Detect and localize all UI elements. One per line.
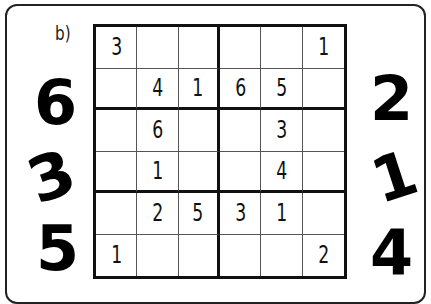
cell-value: 1 <box>318 33 329 61</box>
grid-cell-r3-c1[interactable] <box>96 110 137 152</box>
cell-value: 5 <box>276 74 287 102</box>
cell-value: 3 <box>111 33 122 61</box>
grid-cell-r5-c1[interactable] <box>96 193 137 235</box>
grid-cell-r3-c6[interactable] <box>303 110 344 152</box>
right-number-2: 1 <box>373 146 416 208</box>
grid-cell-r3-c3[interactable] <box>179 110 220 152</box>
cell-value: 3 <box>235 199 246 227</box>
cell-value: 1 <box>192 74 203 102</box>
left-number-2: 3 <box>30 146 73 208</box>
grid-cell-r5-c2[interactable]: 2 <box>137 193 178 235</box>
grid-cell-r4-c6[interactable] <box>303 152 344 194</box>
grid-cell-r2-c5[interactable]: 5 <box>261 69 302 111</box>
cell-value: 1 <box>152 157 163 185</box>
grid-cell-r1-c6[interactable]: 1 <box>303 27 344 69</box>
cell-value: 6 <box>152 116 163 144</box>
grid-cell-r2-c3[interactable]: 1 <box>179 69 220 111</box>
grid-cell-r6-c1[interactable]: 1 <box>96 235 137 277</box>
left-number-3: 5 <box>36 218 79 280</box>
right-number-1: 2 <box>370 68 413 130</box>
grid-cell-r1-c4[interactable] <box>220 27 261 69</box>
cell-value: 5 <box>192 199 203 227</box>
grid-cell-r6-c3[interactable] <box>179 235 220 277</box>
grid-cell-r5-c3[interactable]: 5 <box>179 193 220 235</box>
left-number-1: 6 <box>34 72 77 134</box>
grid-cell-r4-c3[interactable] <box>179 152 220 194</box>
grid-cell-r2-c4[interactable]: 6 <box>220 69 261 111</box>
grid-cell-r4-c4[interactable] <box>220 152 261 194</box>
grid-cell-r4-c1[interactable] <box>96 152 137 194</box>
cell-value: 4 <box>152 74 163 102</box>
grid-cell-r5-c5[interactable]: 1 <box>261 193 302 235</box>
grid-cell-r1-c1[interactable]: 3 <box>96 27 137 69</box>
sudoku-grid: 3141656314253112 <box>93 24 347 279</box>
grid-cell-r2-c6[interactable] <box>303 69 344 111</box>
grid-cell-r6-c6[interactable]: 2 <box>303 235 344 277</box>
grid-cell-r1-c2[interactable] <box>137 27 178 69</box>
puzzle-label: b) <box>55 22 71 44</box>
cell-value: 2 <box>152 199 163 227</box>
grid-cell-r5-c6[interactable] <box>303 193 344 235</box>
grid-cell-r5-c4[interactable]: 3 <box>220 193 261 235</box>
cell-value: 2 <box>318 241 329 269</box>
grid-cell-r4-c5[interactable]: 4 <box>261 152 302 194</box>
right-number-3: 4 <box>370 222 413 284</box>
grid-cell-r1-c3[interactable] <box>179 27 220 69</box>
grid-cell-r3-c5[interactable]: 3 <box>261 110 302 152</box>
grid-cell-r6-c4[interactable] <box>220 235 261 277</box>
cell-value: 4 <box>276 157 287 185</box>
cell-value: 6 <box>235 74 246 102</box>
cell-value: 1 <box>276 199 287 227</box>
grid-cell-r2-c2[interactable]: 4 <box>137 69 178 111</box>
cell-value: 1 <box>111 241 122 269</box>
grid-cell-r6-c2[interactable] <box>137 235 178 277</box>
grid-cell-r1-c5[interactable] <box>261 27 302 69</box>
grid-cell-r6-c5[interactable] <box>261 235 302 277</box>
grid-cell-r4-c2[interactable]: 1 <box>137 152 178 194</box>
cell-value: 3 <box>276 116 287 144</box>
grid-cell-r2-c1[interactable] <box>96 69 137 111</box>
grid-cell-r3-c4[interactable] <box>220 110 261 152</box>
grid-cell-r3-c2[interactable]: 6 <box>137 110 178 152</box>
